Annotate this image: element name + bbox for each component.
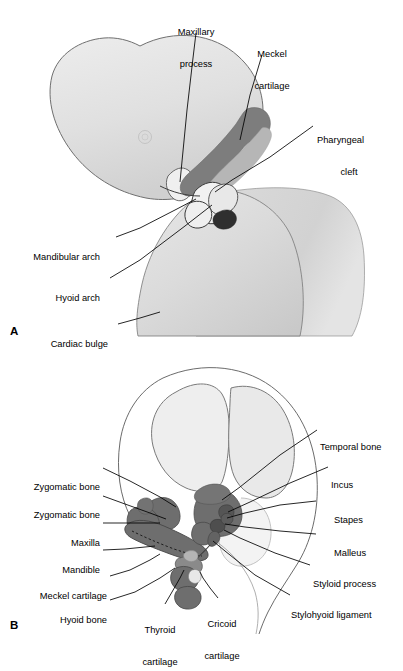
hyoid-bone-horn (184, 551, 198, 562)
label-pharyngeal-cleft: Pharyngeal cleft (317, 114, 403, 199)
panel-letter-a: A (10, 325, 18, 337)
label-stylohyoid-ligament: Stylohyoid ligament (291, 589, 372, 642)
leader-mandible (103, 546, 155, 550)
parietal-bone (229, 386, 295, 498)
leader-meckel-cartilage-b (110, 554, 160, 576)
stapes-shape (221, 513, 233, 524)
leader-cricoid-cartilage (200, 572, 218, 598)
arch-lobe-lower (185, 201, 212, 228)
thyroid-cartilage-notch (188, 569, 201, 583)
panel-letter-b: B (10, 619, 18, 631)
frontal-bone (152, 384, 230, 491)
label-meckel-cartilage: Meckel cartilage (224, 28, 320, 113)
label-cricoid-cartilage: Cricoid cartilage (182, 598, 262, 671)
